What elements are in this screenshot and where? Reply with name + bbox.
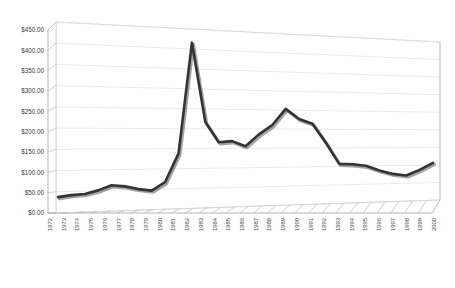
left-depth-wall xyxy=(48,22,56,213)
x-axis-label-1980: 1980 xyxy=(157,217,163,231)
x-axis-label-1983: 1983 xyxy=(198,217,204,231)
x-axis-label-1987: 1987 xyxy=(253,218,259,231)
x-axis-label-1990: 1990 xyxy=(294,217,300,231)
x-axis-label-1982: 1982 xyxy=(184,218,190,231)
x-axis-label-1994: 1994 xyxy=(349,217,355,231)
x-axis-label-1989: 1989 xyxy=(280,218,286,231)
x-axis-labels: 1972197319741975197619771978197919801981… xyxy=(47,217,437,231)
chart-3d-walls xyxy=(48,22,440,213)
x-axis-label-1991: 1991 xyxy=(308,218,314,231)
y-axis-label-50: $50.00 xyxy=(25,189,45,196)
x-axis-label-2000: 2000 xyxy=(431,217,437,231)
x-axis-label-1996: 1996 xyxy=(376,217,382,231)
x-axis-label-1995: 1995 xyxy=(362,217,368,231)
x-axis-label-1976: 1976 xyxy=(102,217,108,231)
y-axis-label-200: $200.00 xyxy=(21,128,44,135)
line-chart-plot: $0.00$50.00$100.00$150.00$200.00$250.00$… xyxy=(0,0,455,288)
x-axis-label-1979: 1979 xyxy=(143,218,149,231)
x-axis-label-1972: 1972 xyxy=(47,218,53,231)
y-axis-label-250: $250.00 xyxy=(21,108,44,115)
x-axis-label-1984: 1984 xyxy=(212,217,218,231)
x-axis-label-1977: 1977 xyxy=(116,218,122,231)
x-axis-label-1978: 1978 xyxy=(129,217,135,231)
x-axis-label-1998: 1998 xyxy=(404,217,410,231)
x-axis-label-1992: 1992 xyxy=(321,218,327,231)
x-axis-label-1988: 1988 xyxy=(266,217,272,231)
y-axis-label-0: $0.00 xyxy=(28,209,44,216)
x-axis-label-1974: 1974 xyxy=(74,217,80,231)
y-axis-label-400: $400.00 xyxy=(21,47,44,54)
x-axis-label-1997: 1997 xyxy=(390,218,396,231)
x-axis-label-1973: 1973 xyxy=(61,217,67,231)
y-axis-label-450: $450.00 xyxy=(21,26,44,33)
x-axis-label-1975: 1975 xyxy=(88,217,94,231)
y-axis-labels: $0.00$50.00$100.00$150.00$200.00$250.00$… xyxy=(21,26,44,216)
x-axis-label-1985: 1985 xyxy=(225,217,231,231)
y-axis-label-100: $100.00 xyxy=(21,169,44,176)
x-axis-label-1986: 1986 xyxy=(239,217,245,231)
chart-container: $0.00$50.00$100.00$150.00$200.00$250.00$… xyxy=(0,0,455,288)
x-axis-label-1999: 1999 xyxy=(417,218,423,231)
x-axis-label-1981: 1981 xyxy=(170,218,176,231)
y-axis-label-350: $350.00 xyxy=(21,67,44,74)
y-axis-label-150: $150.00 xyxy=(21,148,44,155)
y-axis-label-300: $300.00 xyxy=(21,87,44,94)
x-axis-label-1993: 1993 xyxy=(335,217,341,231)
